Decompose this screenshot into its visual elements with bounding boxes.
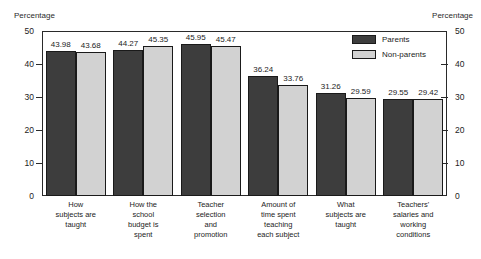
bar-value-label: 33.76 <box>273 74 313 83</box>
bar-parents <box>46 51 76 196</box>
bar-non-parents <box>211 46 241 196</box>
y-tick-label-right-50: 50 <box>455 27 481 36</box>
legend-label-non-parents: Non-parents <box>382 50 426 59</box>
legend-item-non-parents: Non-parents <box>352 48 426 61</box>
y-tick-label-left-30: 30 <box>0 93 34 102</box>
bar-parents <box>316 93 346 196</box>
y-tick-label-left-40: 40 <box>0 60 34 69</box>
bar-value-label: 29.59 <box>341 87 381 96</box>
left-axis-title: Percentage <box>14 11 55 20</box>
y-tick-label-right-20: 20 <box>455 126 481 135</box>
x-axis-label-5: Whatsubjects aretaught <box>309 200 383 230</box>
x-axis-label-4: Amount oftime spentteachingeach subject <box>241 200 315 240</box>
bar-non-parents <box>76 52 106 196</box>
legend-swatch-parents-icon <box>352 35 376 44</box>
legend-item-parents: Parents <box>352 33 426 46</box>
bar-group: 36.2433.76 <box>248 31 308 196</box>
y-tick-label-left-50: 50 <box>0 27 34 36</box>
y-tick-label-left-10: 10 <box>0 159 34 168</box>
legend-label-parents: Parents <box>382 35 410 44</box>
bar-value-label: 45.47 <box>206 35 246 44</box>
y-tick-label-right-40: 40 <box>455 60 481 69</box>
bar-parents <box>113 50 143 196</box>
y-tick-label-right-30: 30 <box>455 93 481 102</box>
bar-parents <box>248 76 278 196</box>
x-axis-label-2: How theschoolbudget isspent <box>106 200 180 240</box>
y-tick-label-left-20: 20 <box>0 126 34 135</box>
legend-swatch-non-parents-icon <box>352 50 376 59</box>
x-axis-label-6: Teachers'salaries andworkingconditions <box>376 200 450 240</box>
y-tick-label-right-0: 0 <box>455 192 481 201</box>
bar-value-label: 43.68 <box>71 41 111 50</box>
bar-value-label: 29.42 <box>408 88 448 97</box>
bar-group: 43.9843.68 <box>46 31 106 196</box>
chart-legend: Parents Non-parents <box>352 33 426 63</box>
y-tick-label-right-10: 10 <box>455 159 481 168</box>
bar-non-parents <box>143 46 173 196</box>
bar-group: 44.2745.35 <box>113 31 173 196</box>
bar-non-parents <box>278 85 308 196</box>
right-axis-title: Percentage <box>432 11 473 20</box>
bar-group: 45.9545.47 <box>181 31 241 196</box>
bar-non-parents <box>413 99 443 196</box>
x-axis-label-3: Teacherselectionandpromotion <box>174 200 248 240</box>
bar-value-label: 45.35 <box>138 35 178 44</box>
x-axis-label-1: Howsubjects aretaught <box>39 200 113 230</box>
bar-non-parents <box>346 98 376 196</box>
bar-parents <box>181 44 211 196</box>
y-tick-label-left-0: 0 <box>0 192 34 201</box>
bar-parents <box>383 99 413 197</box>
